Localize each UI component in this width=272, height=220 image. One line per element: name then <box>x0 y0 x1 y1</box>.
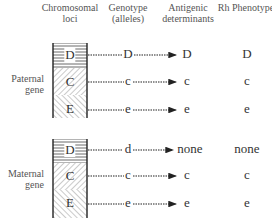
allele-paternal-d: D <box>123 47 132 61</box>
allele-maternal-e: e <box>125 196 131 210</box>
locus-paternal-e: E <box>66 102 74 116</box>
locus-paternal-c: C <box>66 75 75 89</box>
phenotype-paternal-d: D <box>242 47 251 61</box>
connectors <box>88 55 176 204</box>
phenotype-paternal-c: c <box>244 74 250 88</box>
locus-maternal-e: E <box>66 196 74 210</box>
allele-paternal-c: c <box>125 74 131 88</box>
chromosome-diagram <box>0 0 272 220</box>
locus-paternal-d: D <box>64 48 75 62</box>
antigen-maternal-c: c <box>184 168 190 182</box>
phenotype-maternal-c: c <box>244 168 250 182</box>
phenotype-paternal-e: e <box>244 102 250 116</box>
allele-paternal-e: e <box>125 102 131 116</box>
antigen-maternal-d: none <box>177 142 202 156</box>
antigen-paternal-c: c <box>184 74 190 88</box>
locus-maternal-d: D <box>64 143 75 157</box>
allele-maternal-d: d <box>125 142 132 156</box>
locus-maternal-c: C <box>66 169 75 183</box>
phenotype-maternal-d: none <box>234 142 259 156</box>
antigen-maternal-e: e <box>184 196 190 210</box>
antigen-paternal-e: e <box>184 102 190 116</box>
antigen-paternal-d: D <box>182 47 191 61</box>
allele-maternal-c: c <box>125 168 131 182</box>
phenotype-maternal-e: e <box>244 196 250 210</box>
